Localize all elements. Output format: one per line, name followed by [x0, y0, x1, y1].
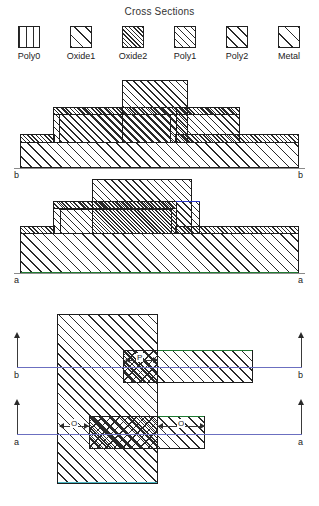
substrate-layer-b: [20, 142, 299, 168]
cross-section-a: a a: [0, 182, 319, 286]
legend-label-oxide2: Oxide2: [109, 51, 157, 61]
swatch-poly1-icon: [174, 26, 196, 48]
dimension-label-o-left: O: [70, 419, 78, 428]
legend-item-poly2: Poly2: [213, 26, 261, 61]
section-label-b-right: b: [298, 170, 303, 180]
legend-item-oxide2: Oxide2: [109, 26, 157, 61]
legend-label-poly1: Poly1: [161, 51, 209, 61]
vertical-bar-bottom-edge: [58, 482, 157, 483]
vertical-bar: [57, 314, 158, 484]
plan-view: b b a a P O O: [0, 292, 319, 506]
legend-item-poly0: Poly0: [5, 26, 53, 61]
dimension-label-o-right: O: [177, 419, 185, 428]
section-line-b: [17, 367, 302, 368]
ground-line-b: [14, 168, 305, 169]
legend-label-poly0: Poly0: [5, 51, 53, 61]
lower-overlap-region: [89, 416, 158, 449]
swatch-poly2-icon: [226, 26, 248, 48]
dimension-arrow-o-left-end-icon: [84, 423, 89, 429]
dimension-arrow-o-left-start-icon: [59, 423, 64, 429]
section-arrow-a-right-icon: [298, 399, 304, 405]
swatch-oxide2-icon: [122, 26, 144, 48]
oxide-strip-left-a: [20, 226, 55, 234]
dimension-arrow-o-right-end-icon: [200, 423, 205, 429]
dimension-arrow-p-right-icon: [153, 357, 158, 363]
substrate-layer-a: [20, 233, 299, 273]
section-arrow-b-right-icon: [298, 332, 304, 338]
dimension-arrow-p-left-icon: [125, 357, 130, 363]
ground-line-a: [14, 273, 305, 274]
plan-section-label-a-right: a: [298, 437, 303, 447]
swatch-oxide1-icon: [70, 26, 92, 48]
section-label-b-left: b: [14, 170, 19, 180]
right-shoulder-top-edge-a: [176, 201, 200, 202]
plan-section-label-b-right: b: [298, 370, 303, 380]
diagram-root: Cross Sections Poly0 Oxide1 Oxide2 Poly1…: [0, 0, 319, 506]
section-tick-a-left: [17, 404, 18, 434]
page-title: Cross Sections: [0, 6, 319, 17]
legend-label-oxide1: Oxide1: [57, 51, 105, 61]
cross-section-b: b b: [0, 78, 319, 178]
section-arrow-b-left-icon: [14, 332, 20, 338]
section-tick-b-right: [301, 337, 302, 367]
dimension-label-p: P: [136, 353, 143, 362]
legend-item-poly1: Poly1: [161, 26, 209, 61]
legend-label-metal: Metal: [265, 51, 313, 61]
plan-section-label-b-left: b: [14, 370, 19, 380]
swatch-metal-icon: [278, 26, 300, 48]
right-shoulder-oxide-cap-b: [176, 107, 240, 115]
section-line-a: [17, 434, 302, 435]
right-shoulder-a: [176, 201, 200, 234]
swatch-poly0-icon: [18, 26, 40, 48]
section-arrow-a-left-icon: [14, 399, 20, 405]
oxide-cap-left-b: [20, 134, 55, 143]
section-label-a-right: a: [298, 275, 303, 285]
plan-section-label-a-left: a: [14, 437, 19, 447]
section-label-a-left: a: [14, 275, 19, 285]
legend: Poly0 Oxide1 Oxide2 Poly1 Poly2 Metal: [0, 26, 319, 74]
legend-item-metal: Metal: [265, 26, 313, 61]
legend-label-poly2: Poly2: [213, 51, 261, 61]
section-tick-a-right: [301, 404, 302, 434]
section-tick-b-left: [17, 337, 18, 367]
legend-item-oxide1: Oxide1: [57, 26, 105, 61]
dimension-arrow-o-right-start-icon: [158, 423, 163, 429]
